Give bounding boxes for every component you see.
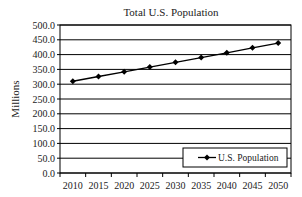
x-tick-label: 2040 [217,180,237,191]
x-tick-label: 2030 [166,180,186,191]
x-tick-label: 2015 [89,180,109,191]
x-tick-label: 2050 [268,180,288,191]
data-point-marker [70,78,76,84]
y-tick-label: 50.0 [38,153,56,164]
x-tick-label: 2020 [114,180,134,191]
y-tick-label: 450.0 [33,34,56,45]
x-tick-label: 2035 [191,180,211,191]
x-tick-label: 2045 [243,180,263,191]
y-axis-label: Millions [9,80,21,117]
data-point-marker [96,74,102,80]
line-chart: 0.050.0100.0150.0200.0250.0300.0350.0400… [0,0,302,197]
y-tick-label: 100.0 [33,138,56,149]
y-tick-label: 250.0 [33,94,56,105]
y-tick-label: 400.0 [33,49,56,60]
y-tick-label: 0.0 [43,168,56,179]
data-point-marker [173,59,179,65]
legend-label: U.S. Population [218,153,279,163]
y-tick-label: 150.0 [33,123,56,134]
y-tick-label: 500.0 [33,20,56,31]
data-point-marker [275,40,281,46]
y-tick-label: 300.0 [33,79,56,90]
x-tick-label: 2025 [140,180,160,191]
y-tick-label: 350.0 [33,64,56,75]
data-point-marker [250,45,256,51]
y-tick-label: 200.0 [33,108,56,119]
data-point-marker [198,55,204,61]
x-tick-label: 2010 [63,180,83,191]
